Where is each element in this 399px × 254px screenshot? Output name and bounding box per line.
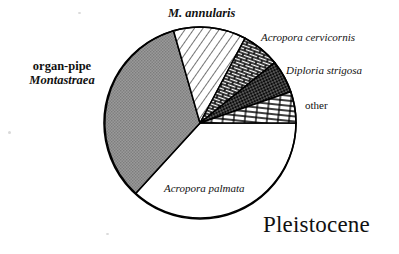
slice-label-organ-pipe-montastraea: organ-pipe Montastraea [14,59,110,87]
slice-label-m-annularis: M. annularis [168,6,235,20]
era-caption: Pleistocene [263,212,370,238]
slice-label-acropora-cervicornis: Acropora cervicornis [261,31,355,43]
slice-label-organ-pipe-line2: Montastraea [14,73,110,87]
slice-label-other: other [305,99,328,111]
slice-label-diploria-strigosa: Diploria strigosa [286,64,362,76]
slice-label-acropora-palmata: Acropora palmata [164,182,245,194]
slice-label-organ-pipe-line1: organ-pipe [14,59,110,73]
figure-canvas: organ-pipe Montastraea M. annularis Acro… [0,0,399,254]
